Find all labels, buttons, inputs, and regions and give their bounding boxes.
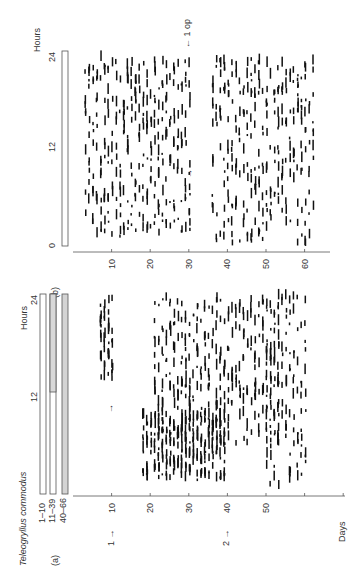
svg-text:20: 20 xyxy=(145,503,155,513)
svg-text:10: 10 xyxy=(107,503,117,513)
panel-a-activity-marks xyxy=(100,289,307,489)
panel-b-hour-tick-12: 12 xyxy=(47,142,57,152)
svg-text:50: 50 xyxy=(261,503,271,513)
legend-label-11-39: 11–39 xyxy=(47,499,57,523)
panel-a-arrow: → xyxy=(105,404,115,413)
legend-bar-11-39-dark xyxy=(50,294,56,392)
legend-label-1-10: 1–10 xyxy=(37,503,47,523)
panel-a-label: (a) xyxy=(50,555,60,566)
panel-b-light-bar xyxy=(62,51,68,246)
panel-b-annotation: ← 1 op xyxy=(182,19,192,48)
panel-b-hour-tick-24: 24 xyxy=(47,52,57,62)
panel-a-hour-tick-12: 12 xyxy=(29,392,39,402)
panel-a-hour-tick-24: 24 xyxy=(29,295,39,305)
marker-2: 2 → xyxy=(221,529,231,546)
panel-b-activity-marks xyxy=(84,50,314,246)
svg-text:30: 30 xyxy=(184,503,194,513)
days-label: Days xyxy=(337,521,347,542)
panel-b-hours-label: Hours xyxy=(32,27,42,52)
legend-bar-40-66 xyxy=(62,294,68,494)
panel-b-hour-tick-0: 0 xyxy=(47,243,57,248)
panel-b: (b) Hours 0 12 24 102030405060 ← 1 op → xyxy=(32,19,330,298)
legend-label-40-66: 40–66 xyxy=(58,498,68,523)
legend-bar-1-10 xyxy=(40,294,46,494)
species-title: Teleogryllus commodus xyxy=(18,471,28,566)
svg-text:30: 30 xyxy=(184,259,194,269)
panel-a: Teleogryllus commodus (a) Hours 24 12 1–… xyxy=(18,289,347,566)
panel-a-hours-label: Hours xyxy=(19,305,29,330)
svg-text:60: 60 xyxy=(300,259,310,269)
svg-text:10: 10 xyxy=(107,259,117,269)
svg-text:20: 20 xyxy=(145,259,155,269)
svg-text:40: 40 xyxy=(222,503,232,513)
actogram-figure: (b) Hours 0 12 24 102030405060 ← 1 op → … xyxy=(0,0,363,566)
panel-b-arrow: → xyxy=(184,169,194,178)
marker-1: 1 → xyxy=(106,529,116,546)
svg-text:50: 50 xyxy=(261,259,271,269)
svg-text:40: 40 xyxy=(222,259,232,269)
